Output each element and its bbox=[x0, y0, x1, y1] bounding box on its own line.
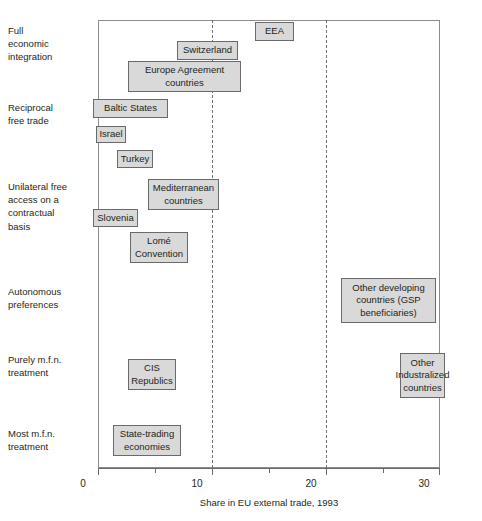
bar-europe-agreement-countries[interactable]: Europe Agreement countries bbox=[128, 61, 241, 92]
category-label-full-economic-integration: Full economic integration bbox=[8, 24, 94, 64]
x-tick-label-20: 20 bbox=[296, 478, 326, 489]
x-tick-10 bbox=[212, 468, 213, 475]
chart-container: Full economic integration Reciprocal fre… bbox=[0, 0, 482, 521]
x-tick-label-0: 0 bbox=[68, 478, 98, 489]
x-tick-20 bbox=[326, 468, 327, 475]
x-tick-5 bbox=[155, 468, 156, 473]
x-tick-30 bbox=[439, 468, 440, 475]
bar-other-industrialized-countries[interactable]: Other Industralized countries bbox=[400, 353, 445, 398]
bar-lome-convention[interactable]: Lomé Convention bbox=[130, 232, 188, 263]
bar-baltic-states[interactable]: Baltic States bbox=[93, 99, 168, 118]
x-tick-15 bbox=[269, 468, 270, 473]
x-axis-title: Share in EU external trade, 1993 bbox=[0, 497, 482, 508]
category-label-autonomous-preferences: Autonomous preferences bbox=[8, 285, 94, 311]
x-tick-label-10: 10 bbox=[182, 478, 212, 489]
bar-other-developing-countries-gsp[interactable]: Other developing countries (GSP benefici… bbox=[341, 278, 436, 323]
bar-switzerland[interactable]: Switzerland bbox=[177, 41, 238, 60]
bar-state-trading-economies[interactable]: State-trading economies bbox=[113, 425, 181, 456]
category-label-most-mfn-treatment: Most m.f.n. treatment bbox=[8, 427, 94, 453]
x-tick-25 bbox=[383, 468, 384, 473]
bar-cis-republics[interactable]: CIS Republics bbox=[128, 359, 176, 390]
x-tick-label-30: 30 bbox=[409, 478, 439, 489]
bar-slovenia[interactable]: Slovenia bbox=[93, 209, 138, 227]
category-label-purely-mfn-treatment: Purely m.f.n. treatment bbox=[8, 353, 94, 379]
x-axis-title-text: Share in EU external trade, 1993 bbox=[144, 497, 338, 508]
bar-israel[interactable]: Israel bbox=[96, 126, 126, 143]
bar-turkey[interactable]: Turkey bbox=[117, 150, 153, 168]
category-label-unilateral-free-access: Unilateral free access on a contractual … bbox=[8, 180, 94, 233]
axis-zero-line bbox=[98, 20, 99, 468]
category-label-reciprocal-free-trade: Reciprocal free trade bbox=[8, 101, 94, 127]
x-tick-0 bbox=[98, 468, 99, 475]
bar-eea[interactable]: EEA bbox=[255, 22, 294, 41]
bar-mediterranean-countries[interactable]: Mediterranean countries bbox=[148, 179, 219, 210]
gridline-20 bbox=[326, 20, 327, 468]
